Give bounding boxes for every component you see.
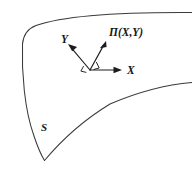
bottom-right-edge-curve xyxy=(45,83,193,161)
coordinate-frame-group xyxy=(68,41,122,73)
x-axis-label: X xyxy=(126,64,135,76)
x-axis-arrowhead xyxy=(114,67,123,73)
surface-outline-group xyxy=(22,12,192,160)
y-axis-arrowhead xyxy=(68,44,77,51)
top-edge-curve xyxy=(23,12,193,44)
surface-label: S xyxy=(41,121,47,133)
right-angle-marker-xy xyxy=(81,66,86,72)
normal-axis-arrowhead xyxy=(100,41,107,48)
surface-diagram-figure: Y Π(X,Y) X S xyxy=(0,0,192,176)
left-edge-curve xyxy=(22,44,44,161)
point-label: Π(X,Y) xyxy=(108,26,143,39)
figure-canvas: Y Π(X,Y) X S xyxy=(0,0,192,176)
y-axis-line xyxy=(72,49,90,70)
normal-axis-line xyxy=(90,45,104,70)
y-axis-label: Y xyxy=(61,33,69,45)
